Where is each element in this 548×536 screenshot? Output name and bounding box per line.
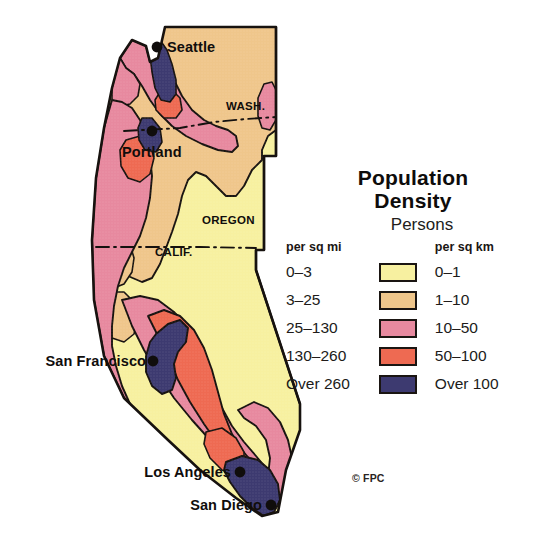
legend-row-left: 25–130 bbox=[284, 319, 375, 337]
legend-row-left: Over 260 bbox=[284, 375, 375, 393]
legend-swatch-cell bbox=[375, 347, 421, 366]
legend-color-swatch bbox=[379, 263, 417, 282]
legend-color-swatch bbox=[379, 347, 417, 366]
city-dot-portland bbox=[147, 126, 158, 137]
legend-row-right: 50–100 bbox=[421, 347, 536, 365]
legend-color-swatch bbox=[379, 375, 417, 394]
legend: Population Density Persons per sq mi per… bbox=[284, 166, 536, 398]
legend-swatch-cell bbox=[375, 375, 421, 394]
city-label-seattle: Seattle bbox=[167, 39, 215, 55]
legend-header-left: per sq mi bbox=[284, 240, 375, 254]
state-label-calif: CALIF. bbox=[155, 246, 193, 258]
legend-units-caption: Persons bbox=[308, 215, 536, 235]
legend-color-swatch bbox=[379, 291, 417, 310]
city-label-san-diego: San Diego bbox=[190, 497, 262, 513]
legend-title-line1: Population bbox=[290, 166, 536, 189]
legend-row-right: Over 100 bbox=[421, 375, 536, 393]
city-dot-san-diego bbox=[266, 500, 277, 511]
city-label-los-angeles: Los Angeles bbox=[144, 464, 231, 480]
legend-swatch-cell bbox=[375, 263, 421, 282]
city-dot-los-angeles bbox=[235, 467, 246, 478]
legend-row-left: 3–25 bbox=[284, 291, 375, 309]
legend-row: 130–260 50–100 bbox=[284, 342, 536, 370]
legend-row: 3–25 1–10 bbox=[284, 286, 536, 314]
legend-swatch-cell bbox=[375, 291, 421, 310]
legend-row: 25–130 10–50 bbox=[284, 314, 536, 342]
state-label-wash: WASH. bbox=[226, 100, 265, 112]
copyright-notice: © FPC bbox=[352, 472, 385, 484]
legend-row: Over 260 Over 100 bbox=[284, 370, 536, 398]
legend-row: 0–3 0–1 bbox=[284, 258, 536, 286]
legend-header-row: per sq mi per sq km bbox=[284, 236, 536, 258]
legend-row-left: 130–260 bbox=[284, 347, 375, 365]
city-dot-san-francisco bbox=[148, 356, 159, 367]
city-label-portland: Portland bbox=[122, 144, 182, 160]
state-label-oregon: OREGON bbox=[202, 214, 255, 226]
legend-header-right: per sq km bbox=[421, 240, 536, 254]
city-dot-seattle bbox=[152, 42, 163, 53]
legend-title: Population Density bbox=[290, 166, 536, 212]
city-label-san-francisco: San Francisco bbox=[46, 353, 146, 369]
legend-row-right: 10–50 bbox=[421, 319, 536, 337]
legend-title-line2: Density bbox=[290, 189, 536, 212]
legend-swatch-cell bbox=[375, 319, 421, 338]
figure-root: WASH. OREGON CALIF. Seattle Portland San… bbox=[0, 0, 548, 536]
legend-row-left: 0–3 bbox=[284, 263, 375, 281]
legend-row-right: 1–10 bbox=[421, 291, 536, 309]
legend-color-swatch bbox=[379, 319, 417, 338]
legend-row-right: 0–1 bbox=[421, 263, 536, 281]
legend-rows: per sq mi per sq km 0–3 0–1 3–25 1–10 25 bbox=[284, 236, 536, 398]
